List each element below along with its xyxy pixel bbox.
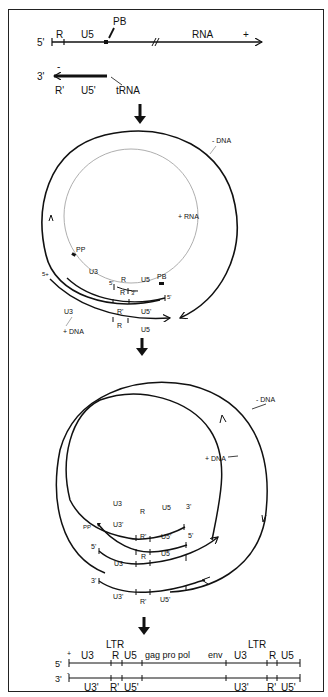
pp-label: PP bbox=[76, 246, 86, 253]
bottom-u5b-label: U5' bbox=[281, 682, 296, 693]
plus-rna-label: + RNA bbox=[178, 213, 199, 220]
plus-dna-label-step3: + DNA bbox=[205, 455, 226, 462]
bottom-u5a-label: U5' bbox=[124, 682, 139, 693]
u5-a-label: U5 bbox=[141, 276, 150, 283]
step1-trna-strand: 3' - R' U5' tRNA bbox=[37, 61, 140, 96]
ltr-right-label: LTR bbox=[248, 639, 266, 650]
row2-u5-label: U5' bbox=[161, 533, 171, 540]
bottom-three-prime-label: 3' bbox=[55, 674, 62, 684]
row4-u5-label: U5' bbox=[160, 596, 170, 603]
step-arrow-1 bbox=[134, 104, 146, 124]
step3-loops: - DNA + DNA U3 R U5 3' PP U3' R' U5' 5' … bbox=[56, 383, 275, 605]
pb-label-step2: PB bbox=[157, 273, 167, 280]
three-prime-b-label: 3' bbox=[131, 290, 135, 296]
top-five-prime-label: 5' bbox=[55, 659, 62, 669]
row2-u3-label: U3' bbox=[113, 521, 123, 528]
r-prime-label: R' bbox=[55, 85, 64, 96]
bottom-u3b-label: U3' bbox=[234, 682, 249, 693]
step4-provirus: LTR LTR 5' + U3 R U5 gag pro pol env U3 … bbox=[55, 639, 300, 693]
pb-site-marker bbox=[104, 40, 108, 44]
top-polarity-label: + bbox=[67, 650, 71, 657]
top-u3a-label: U3 bbox=[81, 650, 94, 661]
row2-pp-label: PP bbox=[83, 524, 91, 530]
rna-label: RNA bbox=[192, 29, 213, 40]
minus-dna-strand bbox=[42, 131, 237, 318]
three-prime-label: 3' bbox=[37, 71, 45, 82]
top-u5a-label: U5 bbox=[124, 650, 137, 661]
pb-label: PB bbox=[113, 16, 127, 27]
reverse-transcription-diagram: 5' R U5 PB RNA + 3' - R' U5' tRNA - DNA … bbox=[0, 0, 328, 697]
five-prime-label: 5' bbox=[37, 37, 45, 48]
step2-circle: - DNA + RNA PP U3 5' R U5 PB R 3' 5' R' … bbox=[42, 131, 237, 335]
step1-rna-strand: 5' R U5 PB RNA + bbox=[37, 16, 262, 48]
row4-r-label: R' bbox=[140, 598, 146, 605]
plus-dna-label: + DNA bbox=[63, 328, 84, 335]
bottom-ra-label: R' bbox=[110, 682, 119, 693]
r-d-label: R bbox=[117, 322, 122, 329]
top-u3b-label: U3 bbox=[234, 650, 247, 661]
row3-r-label: R bbox=[141, 553, 146, 560]
ltr-left-label: LTR bbox=[106, 639, 124, 650]
gag-pro-pol-label: gag pro pol bbox=[145, 650, 190, 660]
row2-r-label: R' bbox=[140, 533, 146, 540]
row3-u5-label: U5 bbox=[161, 550, 170, 557]
bottom-rb-label: R' bbox=[267, 682, 276, 693]
row4-u3-label: U3' bbox=[113, 593, 123, 600]
u5-d-label: U5 bbox=[141, 326, 150, 333]
bottom-polarity-label: - bbox=[67, 669, 70, 676]
u3-inner-label: U3 bbox=[89, 268, 98, 275]
pb-pointer bbox=[109, 28, 114, 38]
step-arrow-2 bbox=[136, 338, 148, 356]
row1-r-label: R bbox=[140, 508, 145, 515]
row2-end-label: 5' bbox=[188, 532, 193, 539]
row4-start-label: 3' bbox=[91, 577, 96, 584]
row1-end-label: 3' bbox=[186, 503, 191, 510]
bottom-u3a-label: U3' bbox=[84, 682, 99, 693]
r-b-label: R bbox=[120, 289, 125, 296]
u3-outer-label: U3 bbox=[64, 308, 73, 315]
row1-u3-label: U3 bbox=[113, 500, 122, 507]
row1-u5-label: U5 bbox=[162, 504, 171, 511]
minus-dna-label: - DNA bbox=[212, 137, 231, 144]
five-prime-plus-label: 5+ bbox=[42, 271, 49, 277]
top-u5b-label: U5 bbox=[281, 650, 294, 661]
r-a-label: R bbox=[121, 276, 126, 283]
trna-label: tRNA bbox=[116, 85, 140, 96]
top-ra-label: R bbox=[112, 650, 119, 661]
env-label: env bbox=[208, 650, 223, 660]
u5-prime-c-label: U5' bbox=[141, 308, 151, 315]
five-prime-a-label: 5' bbox=[109, 280, 113, 286]
plus-dna-inner-loop bbox=[66, 394, 221, 540]
u5-label: U5 bbox=[81, 29, 94, 40]
minus-dna-label-step3: - DNA bbox=[256, 396, 275, 403]
row3-u3-label: U3 bbox=[114, 560, 123, 567]
r-label: R bbox=[56, 29, 63, 40]
minus-polarity-label: - bbox=[57, 61, 60, 72]
five-prime-c-label: 5' bbox=[167, 294, 171, 300]
u5-prime-label: U5' bbox=[81, 85, 96, 96]
row3-start-label: 5' bbox=[91, 543, 96, 550]
step-arrow-3 bbox=[138, 617, 150, 635]
plus-polarity-label: + bbox=[243, 29, 249, 40]
top-rb-label: R bbox=[269, 650, 276, 661]
